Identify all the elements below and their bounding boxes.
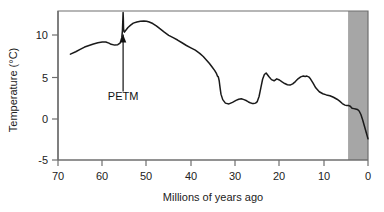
x-tick-label-6: 10 xyxy=(318,170,330,182)
petm-label: PETM xyxy=(108,90,139,102)
temperature-line-chart: 10 5 0 -5 70 60 50 40 30 20 10 0 Million… xyxy=(0,0,384,212)
y-axis-ticks xyxy=(52,35,58,160)
x-tick-label-4: 30 xyxy=(229,170,241,182)
x-tick-label-7: 0 xyxy=(365,170,371,182)
y-tick-label-2: 0 xyxy=(42,113,48,125)
x-tick-label-2: 50 xyxy=(140,170,152,182)
x-tick-label-0: 70 xyxy=(52,170,64,182)
y-tick-label-1: 5 xyxy=(42,72,48,84)
x-tick-label-3: 40 xyxy=(185,170,197,182)
x-axis-ticks xyxy=(58,160,368,166)
x-axis-title: Millions of years ago xyxy=(163,191,263,203)
y-axis-title: Temperature (°C) xyxy=(7,48,19,132)
y-tick-label-0: 10 xyxy=(36,29,48,41)
y-tick-label-3: -5 xyxy=(38,154,48,166)
chart-figure: 10 5 0 -5 70 60 50 40 30 20 10 0 Million… xyxy=(0,0,384,212)
plot-background xyxy=(58,11,368,160)
shaded-band-pleistocene xyxy=(348,11,368,160)
x-tick-label-1: 60 xyxy=(96,170,108,182)
x-tick-label-5: 20 xyxy=(273,170,285,182)
